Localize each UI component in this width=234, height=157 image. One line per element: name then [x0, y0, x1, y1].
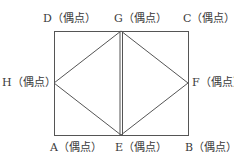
vertex-label-g: G（偶点）	[114, 13, 167, 25]
vertex-label-e: E（偶点）	[115, 142, 167, 154]
edge-h-e	[54, 83, 121, 135]
outer-rectangle	[55, 32, 189, 136]
vertex-label-a: A（偶点）	[50, 142, 102, 154]
edge-h-g	[54, 31, 121, 83]
vertex-label-f: F（偶点）	[192, 77, 234, 89]
vertex-label-c: C（偶点）	[183, 13, 234, 25]
edge-e-f	[121, 83, 188, 135]
edge-g-f	[121, 31, 188, 83]
vertex-label-h: H（偶点）	[2, 77, 56, 89]
vertex-label-d: D（偶点）	[43, 13, 96, 25]
vertex-label-b: B（偶点）	[185, 142, 234, 154]
